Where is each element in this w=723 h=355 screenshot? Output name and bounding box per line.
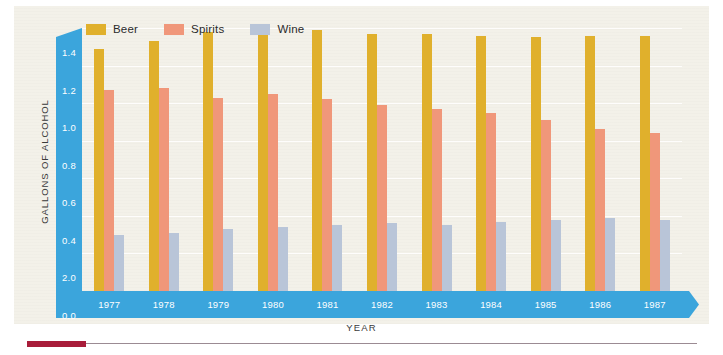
bar-beer-1983 xyxy=(422,34,432,291)
legend-item-label: Beer xyxy=(113,23,138,35)
bar-group-1985 xyxy=(518,28,573,291)
bar-group-1987 xyxy=(627,28,682,291)
bar-wine-1984 xyxy=(496,222,506,292)
bar-spirits-1980 xyxy=(268,94,278,291)
x-axis-tick-label: 1983 xyxy=(409,291,464,318)
bar-beer-1980 xyxy=(258,32,268,291)
legend-swatch-icon xyxy=(250,24,270,35)
legend-item-label: Spirits xyxy=(191,23,224,35)
bar-wine-1978 xyxy=(169,233,179,291)
x-axis-tick-label: 1985 xyxy=(518,291,573,318)
y-axis-tick-labels: 1.41.21.00.80.60.42.00.0 xyxy=(56,28,82,300)
x-axis-tick-label: 1979 xyxy=(191,291,246,318)
bar-spirits-1979 xyxy=(213,98,223,291)
bar-wine-1979 xyxy=(223,229,233,291)
x-axis-tick-label: 1982 xyxy=(355,291,410,318)
bar-spirits-1978 xyxy=(159,88,169,291)
y-axis-title: GALLONS OF ALCOHOL xyxy=(39,62,50,262)
bar-wine-1985 xyxy=(551,220,561,291)
x-axis-tick-label: 1984 xyxy=(464,291,519,318)
bar-spirits-1982 xyxy=(377,105,387,291)
bar-groups xyxy=(82,28,682,291)
bar-wine-1982 xyxy=(387,223,397,291)
bar-wine-1981 xyxy=(332,225,342,291)
footer-accent-rule xyxy=(27,341,86,347)
bar-beer-1985 xyxy=(531,37,541,291)
y-axis-tick-label: 1.4 xyxy=(56,47,82,58)
bar-beer-1978 xyxy=(149,41,159,291)
bar-spirits-1981 xyxy=(322,99,332,291)
bar-group-1981 xyxy=(300,28,355,291)
bar-spirits-1986 xyxy=(595,129,605,291)
legend-swatch-icon xyxy=(164,24,184,35)
y-axis-tick-label: 1.0 xyxy=(56,122,82,133)
legend-item-beer[interactable]: Beer xyxy=(86,23,138,35)
bar-beer-1984 xyxy=(476,36,486,291)
bar-group-1978 xyxy=(137,28,192,291)
bar-beer-1986 xyxy=(585,36,595,291)
plot-area xyxy=(82,28,682,291)
bar-group-1983 xyxy=(409,28,464,291)
x-axis-tick-label: 1986 xyxy=(573,291,628,318)
bar-wine-1986 xyxy=(605,218,615,291)
bar-wine-1983 xyxy=(442,225,452,291)
x-axis-tick-labels: 1977197819791980198119821983198419851986… xyxy=(82,291,682,318)
bar-beer-1982 xyxy=(367,34,377,291)
legend-item-wine[interactable]: Wine xyxy=(250,23,304,35)
x-axis-tick-label: 1987 xyxy=(627,291,682,318)
y-axis-tick-label: 0.4 xyxy=(56,234,82,245)
x-axis-tick-label: 1980 xyxy=(246,291,301,318)
bar-beer-1987 xyxy=(640,36,650,291)
x-axis-tick-label: 1977 xyxy=(82,291,137,318)
bar-wine-1980 xyxy=(278,227,288,291)
y-axis-tick-label: 0.8 xyxy=(56,159,82,170)
footer-rule-line xyxy=(86,343,697,344)
x-axis-tick-label: 1978 xyxy=(137,291,192,318)
bar-spirits-1977 xyxy=(104,90,114,291)
bar-spirits-1984 xyxy=(486,113,496,291)
bar-wine-1977 xyxy=(114,235,124,291)
bar-spirits-1987 xyxy=(650,133,660,291)
bar-group-1986 xyxy=(573,28,628,291)
y-axis-tick-label: 2.0 xyxy=(56,272,82,283)
x-axis-title: YEAR xyxy=(14,322,709,333)
bar-beer-1979 xyxy=(203,32,213,291)
legend-item-label: Wine xyxy=(277,23,304,35)
bar-group-1977 xyxy=(82,28,137,291)
y-axis-tick-label: 0.6 xyxy=(56,197,82,208)
y-axis-tick-label: 1.2 xyxy=(56,84,82,95)
bar-group-1979 xyxy=(191,28,246,291)
x-axis-tick-label: 1981 xyxy=(300,291,355,318)
bar-spirits-1983 xyxy=(432,109,442,291)
bar-group-1982 xyxy=(355,28,410,291)
bar-wine-1987 xyxy=(660,220,670,291)
bar-spirits-1985 xyxy=(541,120,551,291)
chart-figure: BeerSpiritsWine 1.41.21.00.80.60.42.00.0… xyxy=(14,6,709,324)
bar-group-1984 xyxy=(464,28,519,291)
bar-beer-1977 xyxy=(94,49,104,291)
bar-beer-1981 xyxy=(312,30,322,291)
legend-item-spirits[interactable]: Spirits xyxy=(164,23,224,35)
y-axis-tick-label: 0.0 xyxy=(56,310,82,321)
legend-swatch-icon xyxy=(86,24,106,35)
bar-group-1980 xyxy=(246,28,301,291)
chart-legend: BeerSpiritsWine xyxy=(86,20,304,38)
